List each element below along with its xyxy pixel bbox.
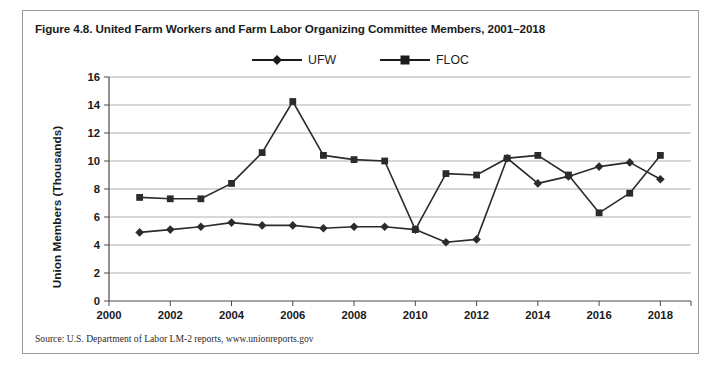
data-point-ufw [380,223,389,232]
y-tick-label: 12 [87,127,100,139]
data-point-ufw [656,175,665,184]
x-tick-label: 2016 [587,309,612,321]
chart-x-axis: 2000200220042006200820102012201420162018 [96,301,691,321]
x-tick-label: 2018 [648,309,673,321]
data-point-ufw [472,235,481,244]
data-point-floc [167,195,174,202]
data-point-floc [534,152,541,159]
y-tick-label: 16 [87,71,100,83]
data-point-floc [412,226,419,233]
data-point-ufw [595,162,604,171]
y-tick-label: 6 [94,211,100,223]
line-chart: 0246810121416 20002002200420062008201020… [23,11,700,355]
y-tick-label: 4 [94,239,101,251]
y-tick-label: 14 [87,99,100,111]
data-point-floc [320,152,327,159]
x-tick-label: 2004 [219,309,245,321]
y-tick-label: 10 [87,155,100,167]
chart-series-group [135,98,664,246]
data-point-ufw [227,218,236,227]
data-point-ufw [625,158,634,167]
data-point-ufw [258,221,267,230]
chart-y-axis: 0246810121416 [87,71,109,307]
data-point-ufw [197,223,206,232]
data-point-floc [351,156,358,163]
x-tick-label: 2012 [464,309,489,321]
data-point-ufw [166,225,175,234]
x-tick-label: 2006 [280,309,305,321]
data-point-floc [259,149,266,156]
data-point-floc [197,195,204,202]
data-point-floc [289,98,296,105]
data-point-floc [228,180,235,187]
data-point-floc [136,194,143,201]
data-point-ufw [135,228,144,237]
data-point-floc [657,152,664,159]
series-line-ufw [140,158,661,242]
x-tick-label: 2014 [525,309,551,321]
x-tick-label: 2008 [341,309,366,321]
x-tick-label: 2002 [158,309,183,321]
data-point-floc [596,209,603,216]
figure-container: Figure 4.8. United Farm Workers and Farm… [22,10,699,354]
y-axis-title: Union Members (Thousands) [50,126,64,289]
chart-gridlines [109,77,691,273]
data-point-floc [473,172,480,179]
data-point-floc [565,172,572,179]
y-tick-label: 8 [94,183,100,195]
data-point-ufw [288,221,297,230]
series-line-floc [140,102,661,230]
data-point-floc [626,190,633,197]
data-point-floc [381,158,388,165]
data-point-ufw [350,223,359,232]
y-tick-label: 0 [94,295,100,307]
data-point-floc [443,170,450,177]
x-tick-label: 2000 [96,309,121,321]
data-point-floc [504,155,511,162]
data-point-ufw [319,224,328,233]
y-tick-label: 2 [94,267,100,279]
x-tick-label: 2010 [403,309,428,321]
source-note: Source: U.S. Department of Labor LM-2 re… [35,333,314,344]
